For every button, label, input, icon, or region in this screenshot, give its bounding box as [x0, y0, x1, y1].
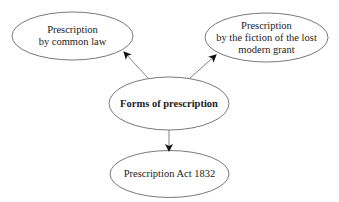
node-lost-modern-grant-label: Prescription by the fiction of the lost …	[216, 20, 317, 56]
node-common-law: Prescription by common law	[12, 12, 133, 60]
node-act-1832: Prescription Act 1832	[110, 150, 229, 197]
central-node-label: Forms of prescription	[120, 98, 218, 110]
node-forms-of-prescription: Forms of prescription	[109, 77, 229, 130]
node-lost-modern-grant: Prescription by the fiction of the lost …	[205, 13, 328, 62]
node-act-1832-label: Prescription Act 1832	[124, 168, 216, 180]
node-common-law-label: Prescription by common law	[39, 24, 107, 48]
